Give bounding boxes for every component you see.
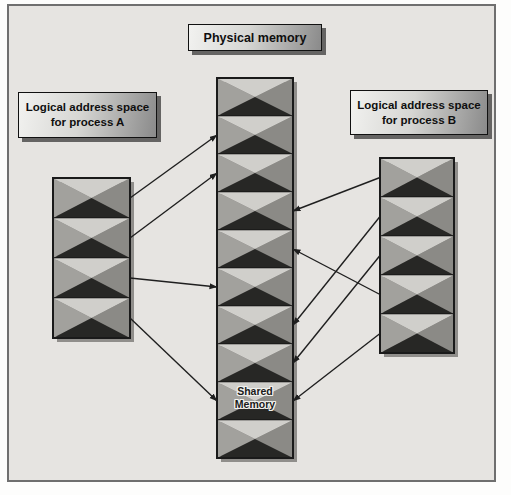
process-a-label: Logical address space for process A (18, 92, 157, 138)
shared-memory-diagram: Physical memory Logical address space fo… (0, 0, 511, 495)
process-b-label: Logical address space for process B (350, 90, 488, 135)
physical-memory-label: Physical memory (188, 24, 322, 51)
shared-memory-label: Shared Memory (217, 376, 293, 420)
